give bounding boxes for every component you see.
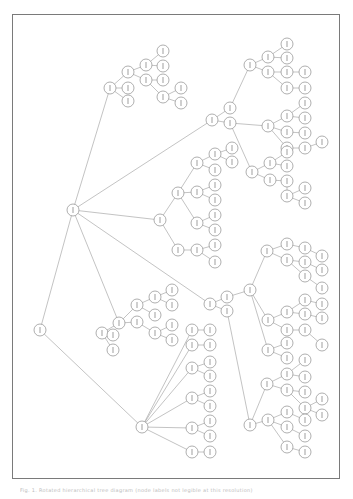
tree-node [316, 409, 328, 421]
tree-node [209, 209, 221, 221]
tree-node [262, 120, 274, 132]
tree-node [221, 305, 233, 317]
tree-node [209, 148, 221, 160]
tree-node [281, 306, 293, 318]
tree-node [299, 66, 311, 78]
tree-node [186, 446, 198, 458]
tree-node [96, 327, 108, 339]
tree-node [149, 291, 161, 303]
tree-node [281, 254, 293, 266]
tree-node [281, 52, 293, 64]
tree-node [299, 324, 311, 336]
tree-node [224, 102, 236, 114]
tree-edge [250, 251, 267, 290]
tree-node [316, 136, 328, 148]
tree-node [262, 314, 274, 326]
tree-node [262, 51, 274, 63]
tree-node [281, 324, 293, 336]
tree-node [172, 244, 184, 256]
tree-node [244, 284, 256, 296]
tree-node [149, 327, 161, 339]
tree-node [157, 45, 169, 57]
tree-node [299, 127, 311, 139]
tree-node [166, 284, 178, 296]
tree-node [191, 217, 203, 229]
tree-edge [40, 210, 73, 330]
tree-edge [230, 65, 250, 108]
tree-node [264, 157, 276, 169]
tree-node [186, 324, 198, 336]
tree-node [204, 400, 216, 412]
tree-node [186, 392, 198, 404]
tree-node [204, 339, 216, 351]
tree-diagram [0, 0, 353, 499]
tree-node [281, 368, 293, 380]
tree-edge [142, 427, 192, 428]
tree-node [281, 406, 293, 418]
tree-node [316, 282, 328, 294]
tree-node [226, 142, 238, 154]
tree-node [172, 187, 184, 199]
tree-node [107, 344, 119, 356]
tree-node [299, 402, 311, 414]
tree-edge [40, 330, 142, 427]
tree-node [316, 312, 328, 324]
tree-node [166, 334, 178, 346]
tree-node [166, 299, 178, 311]
tree-node [299, 97, 311, 109]
tree-node [104, 82, 116, 94]
tree-node [186, 362, 198, 374]
tree-node [221, 291, 233, 303]
tree-node [281, 384, 293, 396]
tree-node [186, 422, 198, 434]
tree-node [316, 250, 328, 262]
tree-node [262, 414, 274, 426]
tree-node [299, 256, 311, 268]
tree-node [209, 239, 221, 251]
tree-edge [73, 210, 119, 323]
tree-node [204, 324, 216, 336]
tree-node [149, 309, 161, 321]
figure-caption: Fig. 1. Rotated hierarchical tree diagra… [20, 487, 340, 497]
tree-node [157, 91, 169, 103]
tree-node [191, 244, 203, 256]
tree-node [136, 421, 148, 433]
tree-node [281, 66, 293, 78]
tree-node [262, 66, 274, 78]
tree-edge [142, 368, 192, 427]
tree-node [281, 110, 293, 122]
tree-node [186, 339, 198, 351]
tree-node [299, 294, 311, 306]
tree-node [154, 214, 166, 226]
tree-node [261, 378, 273, 390]
tree-node [246, 166, 258, 178]
tree-node [299, 197, 311, 209]
tree-node [113, 317, 125, 329]
tree-node [204, 415, 216, 427]
tree-node [140, 74, 152, 86]
tree-edge [73, 88, 110, 210]
tree-node [281, 146, 293, 158]
tree-node [281, 38, 293, 50]
tree-node [299, 112, 311, 124]
tree-node [67, 204, 79, 216]
tree-node [316, 264, 328, 276]
tree-node [299, 182, 311, 194]
tree-node [209, 224, 221, 236]
tree-node [206, 114, 218, 126]
tree-node [281, 82, 293, 94]
tree-node [281, 160, 293, 172]
tree-node [244, 419, 256, 431]
tree-node [299, 386, 311, 398]
tree-edge [227, 311, 250, 425]
tree-node [204, 356, 216, 368]
tree-node [281, 126, 293, 138]
tree-node [316, 393, 328, 405]
tree-node [299, 354, 311, 366]
tree-node [299, 270, 311, 282]
tree-edge [73, 210, 210, 304]
tree-node [166, 319, 178, 331]
tree-node [204, 370, 216, 382]
tree-node [204, 446, 216, 458]
tree-node [281, 421, 293, 433]
